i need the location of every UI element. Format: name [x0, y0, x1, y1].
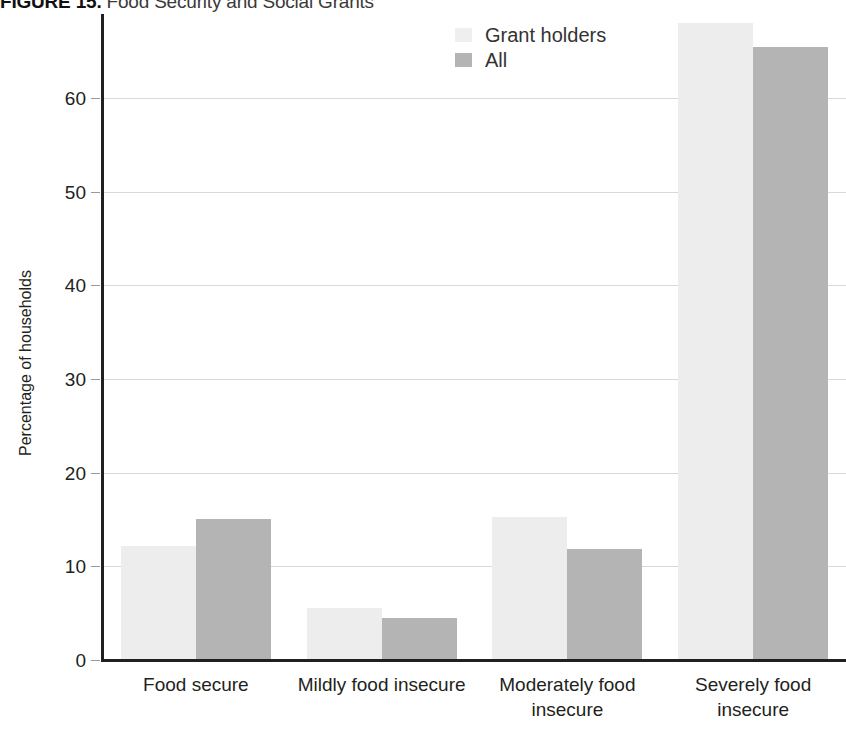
y-axis-tick — [91, 379, 100, 380]
bar-grant-holders — [307, 608, 382, 660]
y-axis-tick — [91, 192, 100, 193]
legend-label: All — [485, 50, 507, 70]
y-axis-tick-label: 10 — [24, 557, 86, 576]
bar-grant-holders — [121, 546, 196, 660]
y-axis-tick-label: 50 — [24, 183, 86, 202]
y-axis-tick — [91, 98, 100, 99]
bar-all — [382, 618, 457, 660]
bar-grant-holders — [492, 517, 567, 660]
bar-all — [567, 549, 642, 660]
bar-all — [196, 519, 271, 660]
bar-all — [753, 47, 828, 660]
x-axis-line — [101, 659, 846, 662]
x-axis-label: Severely foodinsecure — [660, 672, 846, 722]
bar-grant-holders — [678, 23, 753, 660]
x-axis-label-line: Food secure — [103, 672, 289, 697]
legend-item: Grant holders — [455, 22, 675, 47]
x-axis-label: Moderately foodinsecure — [475, 672, 661, 722]
x-axis-label-line: Moderately food — [475, 672, 661, 697]
y-axis-tick-label: 60 — [24, 89, 86, 108]
x-axis-label-line: Mildly food insecure — [289, 672, 475, 697]
y-axis-tick — [91, 285, 100, 286]
y-axis-tick — [91, 660, 100, 661]
legend-swatch-icon — [455, 28, 472, 42]
legend-item: All — [455, 47, 675, 72]
x-axis-label-line: Severely food — [660, 672, 846, 697]
x-axis-label-line: insecure — [660, 697, 846, 722]
y-axis-tick — [91, 566, 100, 567]
x-axis-label-line: insecure — [475, 697, 661, 722]
y-axis-title: Percentage of households — [18, 253, 34, 473]
legend-swatch-icon — [455, 53, 472, 67]
plot-area — [103, 14, 846, 660]
legend-label: Grant holders — [485, 25, 606, 45]
y-axis-tick-label: 0 — [24, 651, 86, 670]
x-axis-category-labels: Food secureMildly food insecureModeratel… — [103, 672, 846, 730]
chart-legend: Grant holdersAll — [455, 22, 675, 72]
x-axis-label: Mildly food insecure — [289, 672, 475, 697]
y-axis-line — [101, 14, 104, 662]
y-axis-tick — [91, 473, 100, 474]
x-axis-label: Food secure — [103, 672, 289, 697]
bar-chart: 0102030405060 Percentage of households G… — [0, 0, 846, 730]
